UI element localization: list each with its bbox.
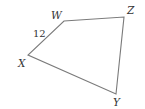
vertex-label-w: W	[51, 9, 63, 21]
vertex-label-x: X	[17, 57, 26, 69]
quadrilateral-diagram: W Z Y X 12	[0, 0, 145, 109]
vertex-label-z: Z	[126, 4, 135, 16]
side-length-label-wx: 12	[33, 28, 46, 39]
vertex-label-y: Y	[113, 96, 121, 108]
